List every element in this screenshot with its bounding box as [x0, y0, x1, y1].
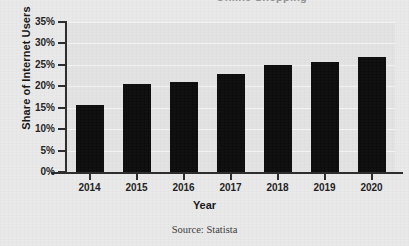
x-tick [89, 174, 91, 180]
x-tick [277, 174, 279, 180]
x-tick [230, 174, 232, 180]
y-tick [58, 64, 66, 66]
chart-title-cropped: Online Shopping [0, 0, 409, 7]
y-tick [58, 107, 66, 109]
y-tick [58, 150, 66, 152]
x-axis-line [51, 172, 403, 174]
y-tick [58, 171, 66, 173]
x-tick-label: 2014 [70, 182, 110, 193]
x-tick-label: 2017 [211, 182, 251, 193]
bar-2020 [358, 57, 386, 172]
bar-2015 [123, 84, 151, 172]
chart-figure: Online Shopping 0%5%10%15%20%25%30%35% 2… [0, 0, 409, 246]
y-tick [58, 42, 66, 44]
x-tick [371, 174, 373, 180]
plot-area [66, 22, 395, 172]
y-tick [58, 128, 66, 130]
y-tick [58, 85, 66, 87]
bar-2017 [217, 74, 245, 172]
x-tick [324, 174, 326, 180]
bar-series [66, 22, 395, 172]
y-tick [58, 21, 66, 23]
x-tick [183, 174, 185, 180]
x-tick-label: 2016 [164, 182, 204, 193]
bar-2019 [311, 62, 339, 172]
x-tick-label: 2015 [117, 182, 157, 193]
x-tick [136, 174, 138, 180]
bar-2014 [76, 105, 104, 172]
x-tick-label: 2018 [258, 182, 298, 193]
y-tick-label: 0% [15, 167, 55, 177]
bar-2018 [264, 65, 292, 172]
x-tick-label: 2020 [352, 182, 392, 193]
bar-2016 [170, 82, 198, 172]
x-tick-label: 2019 [305, 182, 345, 193]
source-note: Source: Statista [0, 224, 409, 235]
chart-title-text: Online Shopping [216, 0, 307, 3]
y-axis-title: Share of Internet Users [20, 0, 32, 148]
x-axis-title: Year [0, 199, 409, 211]
